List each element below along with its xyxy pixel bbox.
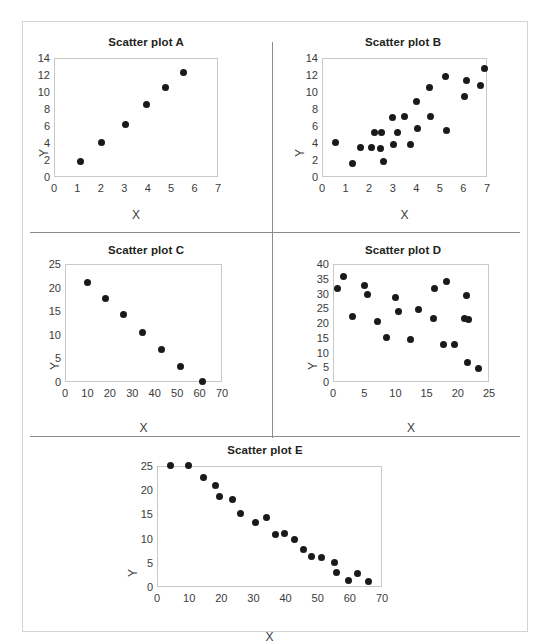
x-tick-label: 50 (312, 592, 324, 604)
x-tick-label: 7 (215, 182, 221, 194)
data-point (340, 273, 347, 280)
scatter-plot-panel-b: Scatter plot B0246810121401234567YX (280, 28, 526, 228)
data-point (475, 365, 482, 372)
x-tick-label: 5 (168, 182, 174, 194)
data-point (122, 121, 129, 128)
x-tick-label: 5 (437, 182, 443, 194)
data-point (430, 315, 437, 322)
data-point (431, 285, 438, 292)
y-tick-label: 8 (288, 103, 318, 115)
horizontal-divider-upper (30, 232, 520, 233)
x-tick-label: 0 (51, 182, 57, 194)
data-point (377, 145, 384, 152)
plot-area-a (54, 58, 218, 177)
data-point (368, 144, 375, 151)
data-point (481, 65, 488, 72)
y-tick-label: 10 (20, 86, 50, 98)
x-tick-label: 70 (376, 592, 388, 604)
data-point (415, 306, 422, 313)
x-tick-label: 70 (216, 387, 228, 399)
data-point (364, 291, 371, 298)
x-axis-label-a: X (54, 208, 218, 222)
y-tick-label: 10 (299, 347, 329, 359)
data-point (461, 93, 468, 100)
data-point (443, 278, 450, 285)
data-point (120, 311, 127, 318)
data-point (442, 73, 449, 80)
data-point (443, 127, 450, 134)
data-point (440, 341, 447, 348)
data-point (451, 341, 458, 348)
x-tick-label: 25 (483, 387, 495, 399)
data-point (389, 114, 396, 121)
data-point (180, 69, 187, 76)
data-point (333, 569, 340, 576)
data-point (167, 462, 174, 469)
data-point (158, 346, 165, 353)
x-tick-label: 40 (279, 592, 291, 604)
y-tick-label: 30 (299, 288, 329, 300)
y-tick-label: 0 (288, 171, 318, 183)
x-axis-label-c: X (65, 421, 222, 435)
data-point (252, 519, 259, 526)
y-tick-label: 25 (123, 460, 153, 472)
data-point (291, 536, 298, 543)
y-tick-label: 8 (20, 103, 50, 115)
plot-title-b: Scatter plot B (280, 36, 526, 48)
data-point (281, 530, 288, 537)
data-point (143, 101, 150, 108)
data-point (162, 84, 169, 91)
x-tick-label: 0 (319, 182, 325, 194)
y-tick-label: 20 (31, 282, 61, 294)
y-tick-label: 0 (20, 171, 50, 183)
data-point (365, 578, 372, 585)
x-tick-label: 6 (192, 182, 198, 194)
data-point (308, 553, 315, 560)
y-tick-label: 10 (31, 329, 61, 341)
data-point (392, 294, 399, 301)
x-tick-label: 2 (98, 182, 104, 194)
data-point (371, 129, 378, 136)
x-tick-label: 0 (62, 387, 68, 399)
scatter-plot-panel-a: Scatter plot A0246810121401234567YX (26, 28, 266, 228)
y-tick-label: 25 (299, 302, 329, 314)
y-tick-label: 14 (20, 52, 50, 64)
y-tick-label: 6 (288, 120, 318, 132)
data-point (361, 282, 368, 289)
horizontal-divider-lower (30, 436, 520, 437)
scatter-plot-panel-c: Scatter plot C0510152025010203040506070Y… (26, 236, 266, 432)
data-point (401, 113, 408, 120)
y-tick-label: 6 (20, 120, 50, 132)
data-point (272, 531, 279, 538)
data-point (177, 363, 184, 370)
x-tick-label: 4 (145, 182, 151, 194)
scatter-plot-panel-d: Scatter plot D05101520253035400510152025… (280, 236, 526, 432)
x-tick-label: 3 (390, 182, 396, 194)
x-tick-label: 5 (361, 387, 367, 399)
data-point (185, 462, 192, 469)
data-point (334, 285, 341, 292)
plot-area-c (65, 264, 222, 382)
x-tick-label: 0 (330, 387, 336, 399)
y-tick-label: 15 (299, 332, 329, 344)
data-point (263, 514, 270, 521)
data-point (139, 329, 146, 336)
x-tick-label: 30 (247, 592, 259, 604)
data-point (427, 113, 434, 120)
vertical-divider (272, 42, 273, 438)
data-point (77, 158, 84, 165)
y-tick-label: 12 (20, 69, 50, 81)
data-point (332, 139, 339, 146)
scatter-plots-figure: { "figure": { "background": "#ffffff", "… (0, 0, 548, 644)
x-tick-label: 2 (366, 182, 372, 194)
x-axis-label-d: X (333, 421, 489, 435)
x-tick-label: 50 (171, 387, 183, 399)
y-tick-label: 15 (31, 305, 61, 317)
y-tick-label: 12 (288, 69, 318, 81)
x-tick-label: 20 (104, 387, 116, 399)
y-tick-label: 0 (299, 376, 329, 388)
data-point (84, 279, 91, 286)
data-point (426, 84, 433, 91)
data-point (395, 308, 402, 315)
data-point (390, 141, 397, 148)
